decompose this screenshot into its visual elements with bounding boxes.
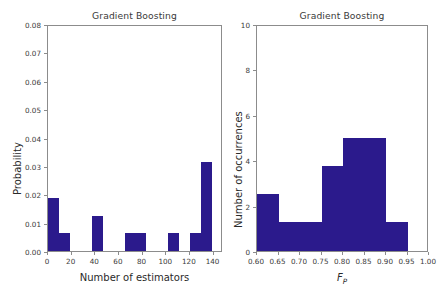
x-axis-tick [278, 252, 279, 255]
histogram-bar [300, 222, 322, 252]
x-axis-tick [213, 252, 214, 255]
x-axis-title-right: FP [256, 272, 428, 286]
y-axis-title-right: Number of occurrences [233, 111, 244, 228]
chart-title-right: Gradient Boosting [256, 10, 428, 21]
x-axis-tick [71, 252, 72, 255]
x-axis-tick [407, 252, 408, 255]
x-axis-tick [189, 252, 190, 255]
x-axis-tick [256, 252, 257, 255]
y-axis-tick-label: 8 [222, 66, 250, 75]
x-axis-tick [47, 252, 48, 255]
x-axis-tick-label: 100 [158, 257, 172, 266]
y-axis-tick [253, 25, 256, 26]
x-axis-tick-label: 140 [206, 257, 220, 266]
y-axis-tick [44, 224, 47, 225]
x-axis-tick [94, 252, 95, 255]
y-axis-tick-label: 0.06 [0, 77, 41, 86]
x-axis-tick [321, 252, 322, 255]
y-axis-tick [44, 53, 47, 54]
x-axis-tick [364, 252, 365, 255]
x-axis-title-subscript: P [343, 277, 347, 286]
histogram-bar [136, 233, 147, 251]
histogram-bar [201, 162, 212, 251]
histogram-bar [168, 233, 179, 251]
histogram-bar [48, 198, 59, 251]
y-axis-tick [253, 70, 256, 71]
x-axis-tick-label: 0.90 [377, 257, 393, 266]
x-axis-tick-label: 0.75 [312, 257, 328, 266]
histogram-bar [322, 166, 344, 251]
y-axis-tick-label: 0.01 [0, 219, 41, 228]
y-axis-tick-label: 0.08 [0, 21, 41, 30]
x-axis-tick [385, 252, 386, 255]
histogram-bar [365, 138, 387, 252]
x-axis-tick-label: 0.65 [269, 257, 285, 266]
x-axis-tick-label: 0.95 [398, 257, 414, 266]
x-axis-tick-label: 0.70 [291, 257, 307, 266]
plot-area-left [47, 25, 222, 252]
x-axis-tick-label: 1.00 [420, 257, 436, 266]
histogram-bar [125, 233, 136, 251]
histogram-bar [59, 233, 70, 251]
x-axis-tick-label: 80 [137, 257, 146, 266]
histogram-bar [92, 216, 103, 251]
x-axis-tick [428, 252, 429, 255]
x-axis-tick-label: 0.85 [355, 257, 371, 266]
x-axis-tick-label: 40 [90, 257, 99, 266]
x-axis-tick [299, 252, 300, 255]
y-axis-tick [253, 116, 256, 117]
histogram-bar [279, 222, 301, 252]
x-axis-tick-label: 0.60 [248, 257, 264, 266]
x-axis-tick-label: 0.80 [334, 257, 350, 266]
chart-panel-right: Gradient Boosting 0246810 0.600.650.700.… [222, 0, 444, 298]
plot-area-right [256, 25, 428, 252]
y-axis-title-left: Probability [12, 142, 23, 195]
x-axis-tick [142, 252, 143, 255]
y-axis-tick-label: 0.05 [0, 106, 41, 115]
chart-panel-left: Gradient Boosting 0.000.010.020.030.040.… [0, 0, 222, 298]
histogram-bar [257, 194, 279, 251]
histogram-bar [190, 233, 201, 251]
x-axis-tick-label: 20 [66, 257, 75, 266]
histogram-bar [343, 138, 365, 252]
histogram-bar [386, 222, 408, 252]
chart-title-left: Gradient Boosting [47, 10, 222, 21]
y-axis-tick-label: 10 [222, 21, 250, 30]
y-axis-tick-label: 0.00 [0, 248, 41, 257]
y-axis-tick [253, 207, 256, 208]
y-axis-tick [44, 110, 47, 111]
y-axis-tick [44, 139, 47, 140]
x-axis-tick-label: 60 [113, 257, 122, 266]
y-axis-tick-label: 0 [222, 248, 250, 257]
y-axis-tick [44, 82, 47, 83]
y-axis-tick [44, 167, 47, 168]
y-axis-tick [44, 25, 47, 26]
y-axis-tick [44, 195, 47, 196]
x-axis-tick-label: 120 [182, 257, 196, 266]
x-axis-title-left: Number of estimators [47, 272, 222, 283]
y-axis-tick-label: 0.07 [0, 49, 41, 58]
y-axis-tick [253, 161, 256, 162]
figure-canvas: Gradient Boosting 0.000.010.020.030.040.… [0, 0, 444, 298]
x-axis-tick-label: 0 [45, 257, 50, 266]
x-axis-tick [342, 252, 343, 255]
x-axis-tick [165, 252, 166, 255]
x-axis-tick [118, 252, 119, 255]
